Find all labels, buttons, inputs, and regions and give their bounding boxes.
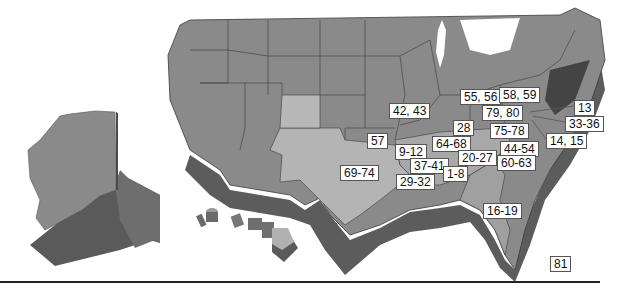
bottom-rule <box>0 281 600 283</box>
region-label-ks: 57 <box>367 133 388 149</box>
alaska <box>28 111 160 266</box>
region-label-ny-ne: 55, 56 <box>460 89 501 105</box>
region-label-tn: 20-27 <box>458 150 497 166</box>
region-label-fl: 16-19 <box>483 203 522 219</box>
region-label-md: 75-78 <box>490 123 529 139</box>
region-label-ri: 13 <box>574 100 595 116</box>
region-label-nj: 33-36 <box>565 116 604 132</box>
region-label-de: 14, 15 <box>546 133 587 149</box>
region-label-pa: 79, 80 <box>482 105 523 121</box>
region-label-nc: 60-63 <box>497 155 536 171</box>
region-label-ms: 1-8 <box>443 166 468 182</box>
region-label-in: 28 <box>453 120 474 136</box>
region-label-la: 29-32 <box>396 174 435 190</box>
region-label-tx: 69-74 <box>340 165 379 181</box>
region-label-ny: 58, 59 <box>499 87 540 103</box>
region-label-wi-il: 42, 43 <box>389 103 430 119</box>
region-label-other: 81 <box>550 256 571 272</box>
